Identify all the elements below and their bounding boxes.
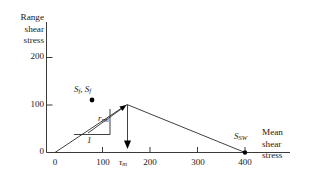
x-tick-label-0: 0 <box>47 157 63 167</box>
tau-subscript: m <box>122 160 127 167</box>
y-axis-title: Range shear stress <box>2 12 44 47</box>
y-axis-title-line-3: stress <box>2 35 44 47</box>
x-axis-title: Mean shear stress <box>262 127 308 162</box>
y-tick-label-0: 0 <box>26 146 44 156</box>
r-subscript: rm <box>102 116 109 123</box>
annotation-sf-label: Sf, Sf <box>74 84 91 97</box>
annotation-ssw-label: SSW <box>234 131 247 144</box>
x-axis-title-line-3: stress <box>262 150 308 162</box>
y-tick-label-100: 100 <box>16 99 44 109</box>
x-axis-title-line-1: Mean <box>262 127 308 139</box>
annotation-slope-rise: rrm <box>98 113 109 126</box>
slope-direction-arrow-head <box>120 105 127 111</box>
figure-container: Range shear stress Mean shear stress 200… <box>0 0 309 176</box>
annotation-slope-run: 1 <box>87 135 92 146</box>
point-marker-sf <box>90 98 95 103</box>
sf-sub-2: f <box>89 87 91 94</box>
point-marker-ssw <box>243 150 247 154</box>
x-tick-label-300: 300 <box>185 157 211 167</box>
y-axis-title-line-2: shear <box>2 24 44 36</box>
x-tick-label-400: 400 <box>232 157 258 167</box>
x-tick-label-tau-m: τm <box>119 157 127 170</box>
y-axis-title-line-1: Range <box>2 12 44 24</box>
x-tick-label-100: 100 <box>90 157 116 167</box>
fatigue-envelope-line <box>55 105 245 153</box>
y-tick-label-200: 200 <box>16 51 44 61</box>
x-axis-title-line-2: shear <box>262 139 308 151</box>
x-tick-label-200: 200 <box>137 157 163 167</box>
tau-m-dropline-arrow-head <box>124 141 131 150</box>
ssw-subscript: SW <box>239 134 248 141</box>
